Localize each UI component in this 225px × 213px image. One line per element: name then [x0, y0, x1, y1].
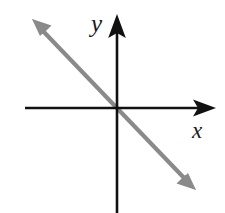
x-axis-label: x — [192, 119, 202, 142]
y-axis-label: y — [91, 11, 102, 36]
negative-slope-line — [32, 19, 196, 190]
line-segment — [42, 30, 187, 181]
coordinate-plane-figure: y x — [0, 0, 225, 213]
coordinate-plane-svg — [0, 0, 225, 213]
